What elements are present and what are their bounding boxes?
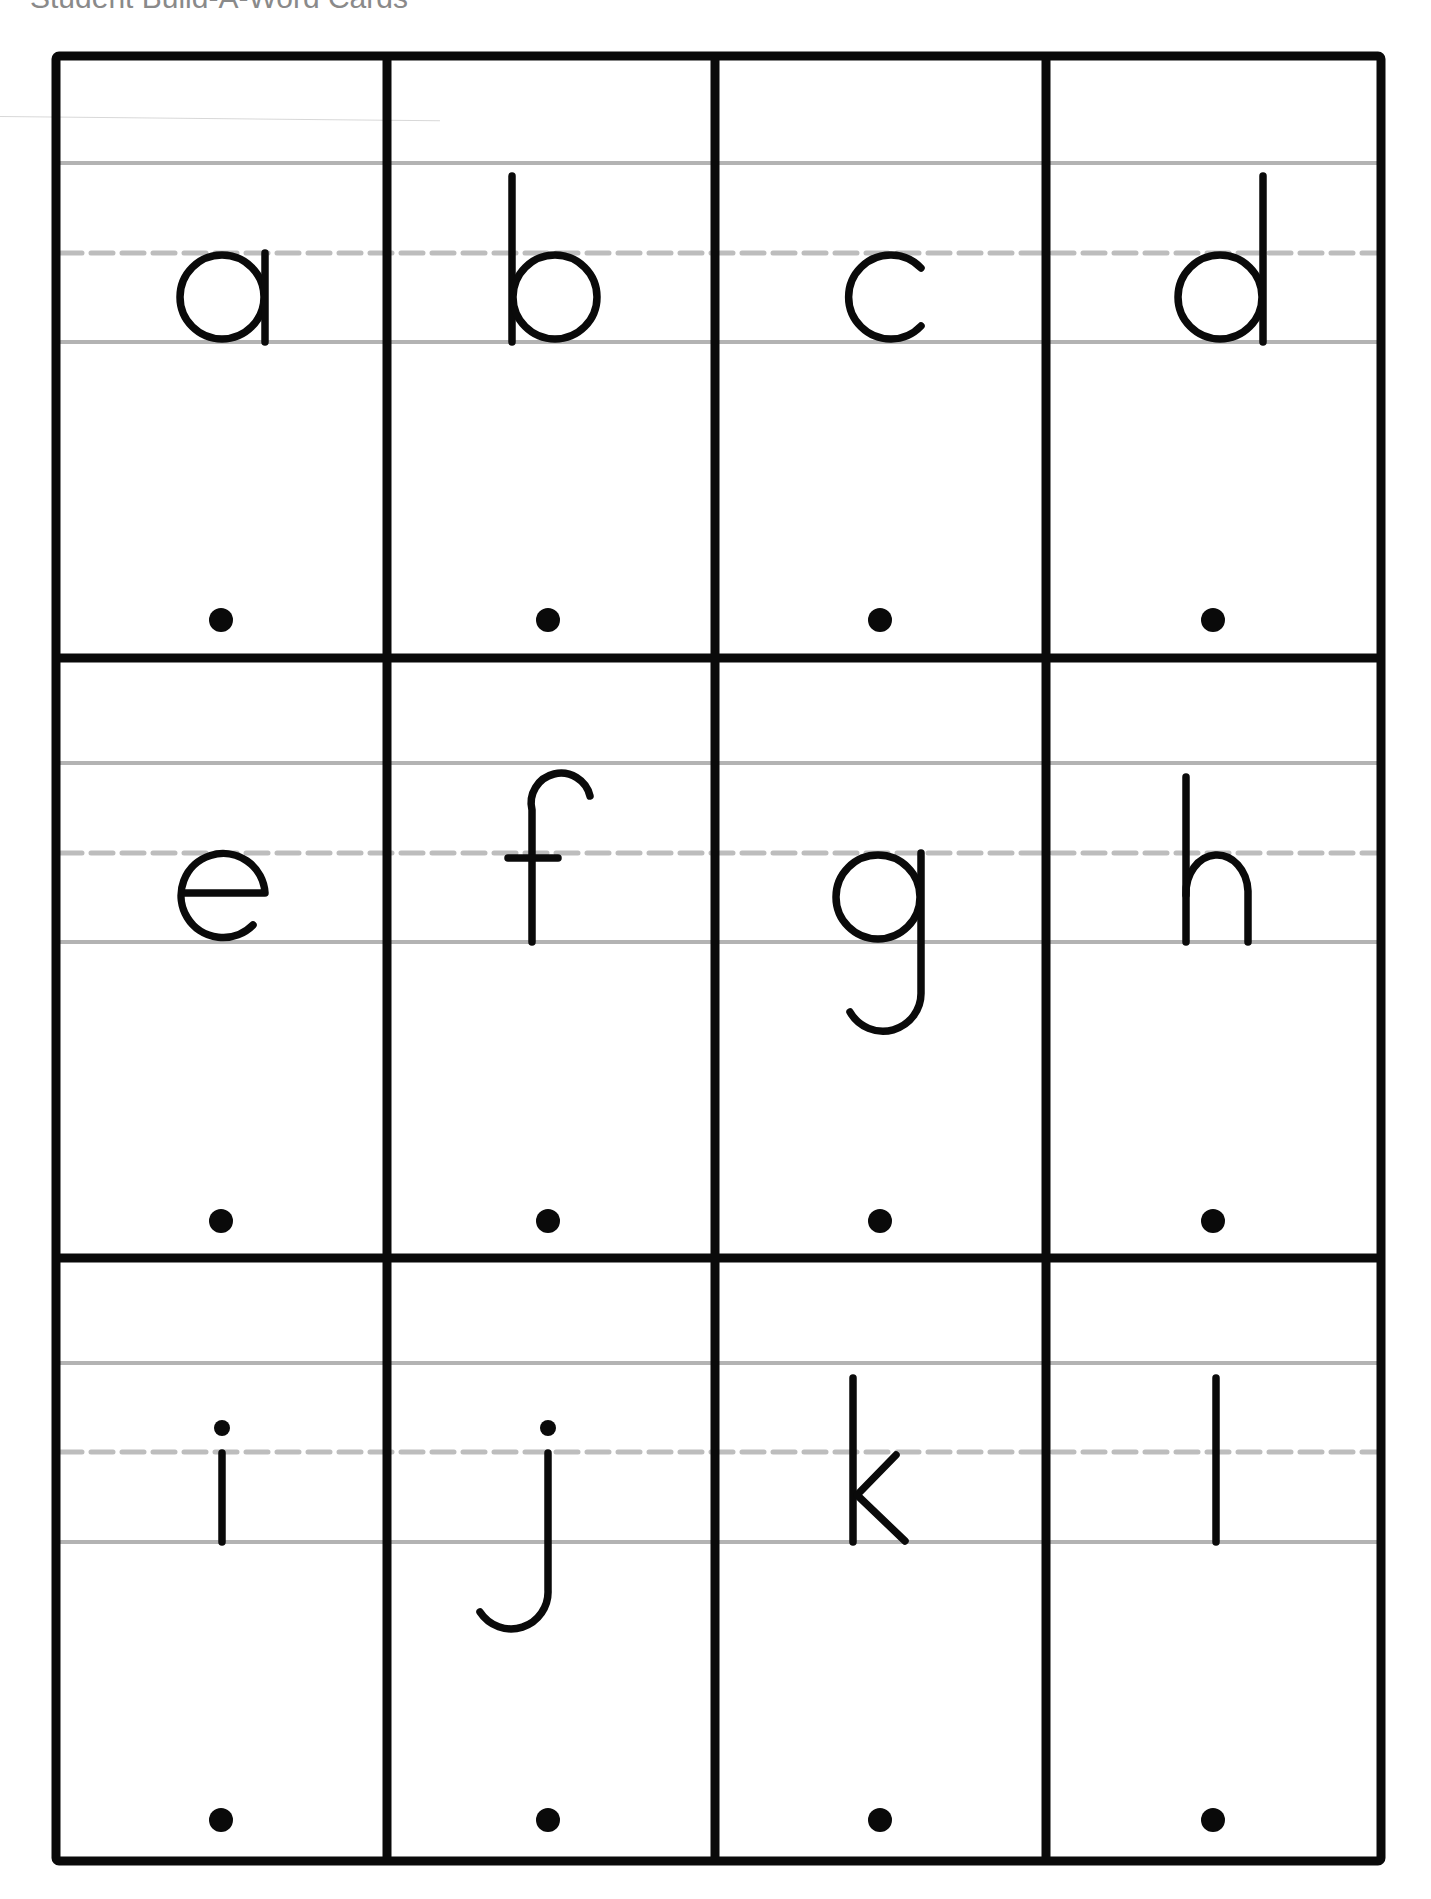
card-dot (1201, 608, 1225, 632)
card-dot (536, 1808, 560, 1832)
card-dot (536, 1209, 560, 1233)
letter-e-glyph (181, 854, 265, 938)
card-dot (209, 1209, 233, 1233)
letter-d-glyph (1178, 176, 1263, 342)
letter-card-sheet (0, 0, 1431, 1899)
letter-c-glyph (849, 255, 921, 339)
letter-b-glyph (512, 176, 597, 342)
card-dot (536, 608, 560, 632)
card-dot (209, 608, 233, 632)
card-dot (209, 1808, 233, 1832)
letter-f-glyph (508, 773, 590, 942)
card-dot (868, 1808, 892, 1832)
card-dot (1201, 1808, 1225, 1832)
card-dot (868, 608, 892, 632)
letter-i-glyph (214, 1420, 230, 1542)
letter-a-glyph (180, 253, 265, 342)
letter-k-glyph (853, 1378, 905, 1542)
card-dot (1201, 1209, 1225, 1233)
letter-h-glyph (1186, 777, 1248, 942)
card-dot (868, 1209, 892, 1233)
